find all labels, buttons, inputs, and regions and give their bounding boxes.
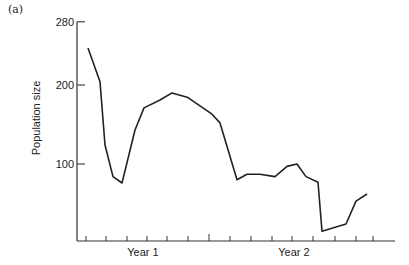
x-tick-labels: Year 1Year 2 (127, 246, 309, 258)
population-line (88, 48, 367, 231)
axes (77, 22, 395, 241)
chart-plot: 100200280 Year 1Year 2 (0, 0, 409, 265)
y-tick-label: 100 (56, 158, 74, 170)
x-tick-label: Year 1 (127, 246, 158, 258)
y-ticks: 100200280 (56, 16, 85, 170)
x-tick-label: Year 2 (278, 246, 309, 258)
x-ticks (86, 234, 373, 241)
y-tick-label: 280 (56, 16, 74, 28)
y-tick-label: 200 (56, 79, 74, 91)
